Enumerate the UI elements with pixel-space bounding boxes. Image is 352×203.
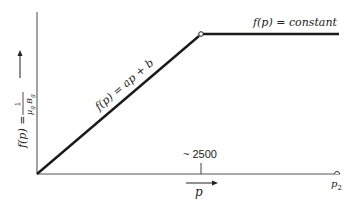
x-axis-label: p <box>195 185 203 199</box>
linear-segment <box>37 36 199 174</box>
p2-end-marker <box>335 172 340 175</box>
knee-point-marker <box>199 32 204 37</box>
x-axis-end-label: p2 <box>331 178 342 192</box>
svg-text:1: 1 <box>14 102 21 106</box>
y-direction-arrow-icon <box>18 50 23 56</box>
svg-text:μgBg: μgBg <box>25 94 36 115</box>
y-axis-label: f(p) = 1 μgBg <box>14 92 36 149</box>
x-direction-arrow-icon <box>212 181 218 186</box>
tick-label-2500: ~ 2500 <box>183 148 217 160</box>
svg-text:f(p) =: f(p) = <box>16 116 29 149</box>
constant-segment-label: f(p) = constant <box>252 16 337 29</box>
pressure-function-diagram: ~ 2500 p2 p f(p) = 1 μgBg f(p) = ap + b … <box>0 0 352 203</box>
linear-segment-label: f(p) = ap + b <box>92 56 157 114</box>
